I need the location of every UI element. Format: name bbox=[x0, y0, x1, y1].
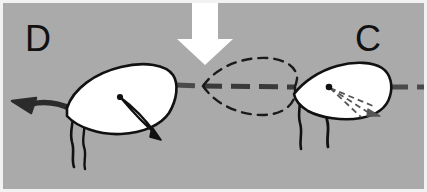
cell-c bbox=[294, 63, 391, 149]
cell-c-body bbox=[294, 63, 391, 119]
cell-d bbox=[67, 64, 176, 169]
micrograph-plate: D C bbox=[3, 3, 424, 189]
curved-left-arrow bbox=[12, 98, 71, 113]
panel-label-d: D bbox=[25, 21, 51, 57]
white-down-arrow bbox=[177, 3, 233, 65]
panel-label-c: C bbox=[355, 21, 381, 57]
figure-panel: D C bbox=[0, 0, 427, 192]
